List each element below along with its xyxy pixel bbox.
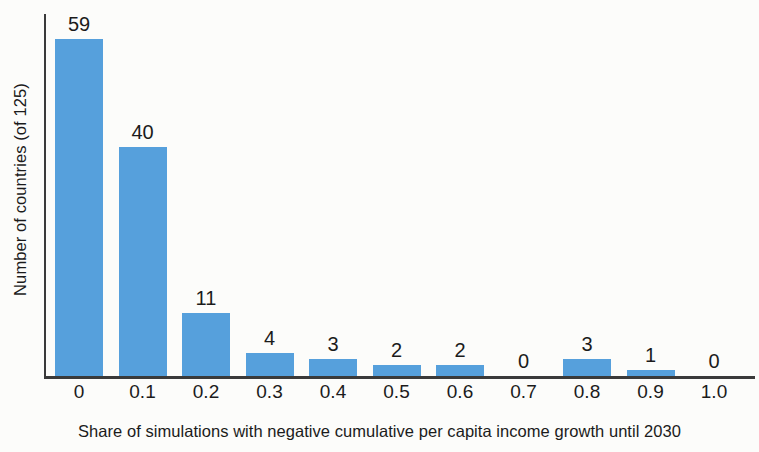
bar-value-label: 40 xyxy=(103,122,183,142)
x-axis-title: Share of simulations with negative cumul… xyxy=(0,422,759,441)
x-axis-line xyxy=(44,376,755,379)
bar-value-label: 59 xyxy=(39,14,119,34)
y-axis-title-text: Number of countries (of 125) xyxy=(11,83,30,296)
bar xyxy=(182,313,230,376)
bar xyxy=(309,359,357,376)
plot-area: 59401143220310 xyxy=(44,14,755,378)
x-axis-tick-labels: 00.10.20.30.40.50.60.70.80.91.0 xyxy=(44,382,755,408)
bar xyxy=(55,39,103,376)
y-axis-line xyxy=(44,14,46,378)
bar-value-label: 11 xyxy=(166,288,246,308)
bar xyxy=(436,365,484,376)
bar xyxy=(246,353,294,376)
x-tick-label: 1.0 xyxy=(674,382,754,401)
bar-value-label: 0 xyxy=(674,351,754,371)
y-axis-title: Number of countries (of 125) xyxy=(0,0,40,378)
bar xyxy=(627,370,675,376)
bar xyxy=(373,365,421,376)
bar-chart-figure: Number of countries (of 125) 59401143220… xyxy=(0,0,759,452)
bar-value-label: 0 xyxy=(484,351,564,371)
bar xyxy=(119,147,167,376)
bar xyxy=(563,359,611,376)
